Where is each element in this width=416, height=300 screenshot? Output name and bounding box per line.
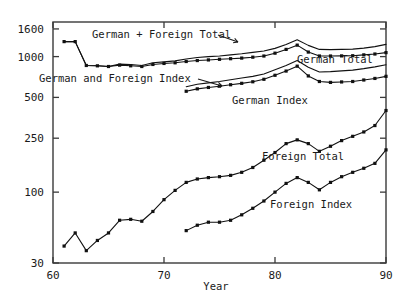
- data-point: [207, 86, 210, 89]
- data-point: [240, 56, 243, 59]
- data-point: [162, 62, 165, 65]
- y-tick-label: 100: [24, 186, 44, 199]
- chart-figure: 3010025050010001600 60708090 German + Fo…: [0, 0, 416, 300]
- data-point: [318, 80, 321, 83]
- y-tick-label: 30: [31, 257, 44, 270]
- x-tick-label: 90: [379, 269, 392, 282]
- data-point: [218, 58, 221, 61]
- data-point: [251, 166, 254, 169]
- data-point: [185, 181, 188, 184]
- data-point: [251, 207, 254, 210]
- data-point: [362, 78, 365, 81]
- data-point: [273, 74, 276, 77]
- german-and-foreign-index-label-arrow-shaft: [198, 79, 222, 86]
- data-point: [373, 162, 376, 165]
- data-point: [162, 198, 165, 201]
- data-point: [296, 176, 299, 179]
- data-point: [285, 182, 288, 185]
- data-point: [285, 69, 288, 72]
- data-point: [384, 148, 387, 151]
- data-point: [262, 78, 265, 81]
- data-point: [384, 51, 387, 54]
- data-point: [273, 191, 276, 194]
- data-point: [207, 176, 210, 179]
- data-point: [329, 145, 332, 148]
- data-point: [240, 213, 243, 216]
- data-point: [251, 56, 254, 59]
- data-point: [296, 138, 299, 141]
- series-foreign-total: [63, 109, 388, 252]
- foreign-total-label: Foreign Total: [262, 150, 344, 162]
- data-point: [196, 224, 199, 227]
- data-point: [196, 177, 199, 180]
- data-point: [262, 54, 265, 57]
- data-point: [140, 65, 143, 68]
- data-point: [229, 219, 232, 222]
- x-tick-label: 80: [268, 269, 281, 282]
- data-point: [373, 52, 376, 55]
- data-point: [240, 171, 243, 174]
- y-tick-label: 1600: [18, 23, 45, 36]
- data-point: [296, 65, 299, 68]
- data-point: [285, 48, 288, 51]
- german-and-foreign-index-label: German and Foreign Index: [39, 72, 191, 84]
- data-point: [373, 124, 376, 127]
- data-point: [196, 87, 199, 90]
- x-tick-label: 70: [157, 269, 170, 282]
- data-point: [229, 174, 232, 177]
- data-point: [384, 75, 387, 78]
- german-plus-foreign-total-label-arrow-head-a: [233, 42, 238, 43]
- data-point: [118, 64, 121, 67]
- y-tick-label: 1000: [18, 51, 45, 64]
- data-point: [129, 218, 132, 221]
- data-point: [351, 135, 354, 138]
- data-point: [185, 90, 188, 93]
- y-tick-label: 250: [24, 132, 44, 145]
- data-point: [185, 229, 188, 232]
- data-point: [340, 175, 343, 178]
- data-point: [174, 61, 177, 64]
- data-point: [307, 74, 310, 77]
- data-point: [63, 40, 66, 43]
- data-point: [340, 139, 343, 142]
- series-german-index: [185, 65, 388, 93]
- data-point: [151, 210, 154, 213]
- data-point: [262, 199, 265, 202]
- data-point: [107, 231, 110, 234]
- german-total-label: German Total: [297, 53, 373, 65]
- data-point: [174, 189, 177, 192]
- data-point: [351, 171, 354, 174]
- data-point: [218, 221, 221, 224]
- x-tick-label: 60: [46, 269, 59, 282]
- german-plus-foreign-total-label: German + Foreign Total: [92, 28, 231, 40]
- data-point: [129, 64, 132, 67]
- data-point: [307, 142, 310, 145]
- data-point: [240, 82, 243, 85]
- data-point: [229, 83, 232, 86]
- data-point: [85, 64, 88, 67]
- data-point: [107, 65, 110, 68]
- data-point: [251, 80, 254, 83]
- data-point: [273, 52, 276, 55]
- data-point: [318, 188, 321, 191]
- data-point: [307, 181, 310, 184]
- foreign-index-label: Foreign Index: [270, 198, 352, 210]
- data-point: [207, 221, 210, 224]
- data-point: [296, 44, 299, 47]
- data-point: [329, 181, 332, 184]
- data-point: [74, 231, 77, 234]
- y-tick-label: 500: [24, 91, 44, 104]
- data-point: [140, 220, 143, 223]
- data-point: [96, 64, 99, 67]
- data-point: [340, 80, 343, 83]
- data-point: [351, 80, 354, 83]
- data-point: [229, 57, 232, 60]
- data-point: [118, 219, 121, 222]
- data-point: [362, 130, 365, 133]
- data-point: [63, 244, 66, 247]
- data-point: [373, 77, 376, 80]
- data-point: [151, 63, 154, 66]
- data-point: [218, 175, 221, 178]
- data-point: [384, 109, 387, 112]
- data-point: [329, 81, 332, 84]
